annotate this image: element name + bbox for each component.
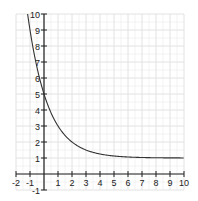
- y-tick-label: 8: [35, 42, 40, 52]
- function-graph: -2-112345678910 -112345678910: [0, 0, 198, 201]
- y-tick-label: 9: [35, 26, 40, 36]
- y-tick-label: 10: [30, 10, 40, 20]
- y-tick-label: -1: [32, 186, 40, 196]
- x-tick-label: 5: [111, 178, 116, 188]
- y-tick-label: 4: [35, 106, 40, 116]
- x-tick-label: 6: [125, 178, 130, 188]
- x-tick-label: 9: [167, 178, 172, 188]
- x-tick-label: 4: [97, 178, 102, 188]
- x-tick-label: 1: [55, 178, 60, 188]
- x-tick-label: 10: [179, 178, 189, 188]
- y-tick-label: 5: [35, 90, 40, 100]
- x-tick-label: 7: [139, 178, 144, 188]
- x-tick-label: 3: [83, 178, 88, 188]
- y-tick-label: 3: [35, 122, 40, 132]
- grid-lines: [16, 14, 184, 190]
- x-tick-label: -2: [12, 178, 20, 188]
- y-tick-label: 2: [35, 138, 40, 148]
- y-tick-label: 1: [35, 154, 40, 164]
- x-tick-label: 8: [153, 178, 158, 188]
- x-tick-label: 2: [69, 178, 74, 188]
